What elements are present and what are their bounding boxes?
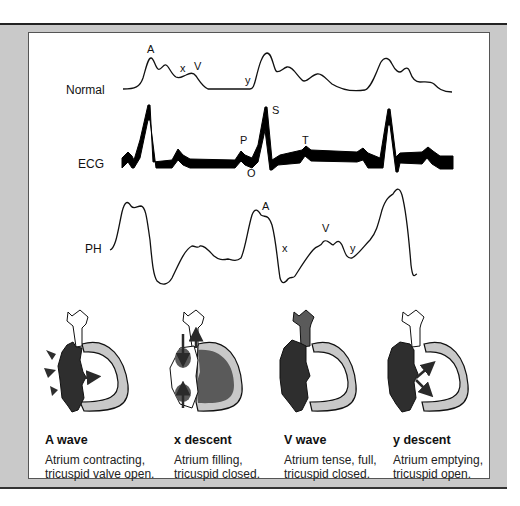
heart-a-wave — [44, 310, 128, 412]
caption-description: Atrium filling, tricuspid closed. — [174, 453, 284, 481]
flow-arrow — [84, 377, 94, 378]
caption-description: Atrium contracting, tricuspid valve open… — [45, 453, 155, 481]
caption-description: Atrium tense, full, tricuspid closed. — [284, 453, 394, 481]
caption-line: tricuspid valve open. — [45, 467, 155, 481]
outflow-arrow-up — [416, 366, 430, 378]
caption-line: tricuspid closed. — [284, 467, 394, 481]
heart-v-wave — [280, 310, 356, 412]
ventricle-wall — [310, 342, 356, 411]
caption-y-descent: y descent Atrium emptying, tricuspid ope… — [393, 433, 503, 481]
caption-a-wave: A wave Atrium contracting, tricuspid val… — [45, 433, 155, 481]
atrium-contracting — [58, 342, 86, 412]
caption-line: Atrium filling, — [174, 453, 284, 467]
heart-diagrams — [0, 0, 520, 506]
caption-line: Atrium contracting, — [45, 453, 155, 467]
contraction-arrows — [44, 350, 58, 396]
caption-title: V wave — [284, 433, 394, 448]
caption-line: Atrium tense, full, — [284, 453, 394, 467]
ventricle-wall — [422, 342, 468, 411]
great-vessel — [402, 310, 424, 347]
caption-title: x descent — [174, 433, 284, 448]
caption-line: Atrium emptying, — [393, 453, 503, 467]
caption-line: tricuspid closed. — [174, 467, 284, 481]
atrium-full — [280, 340, 310, 412]
caption-line: tricuspid open. — [393, 467, 503, 481]
caption-title: y descent — [393, 433, 503, 448]
great-vessel — [183, 310, 204, 347]
caption-x-descent: x descent Atrium filling, tricuspid clos… — [174, 433, 284, 481]
atrium-emptying — [388, 342, 418, 412]
heart-y-descent — [388, 310, 468, 412]
outflow-arrow-down — [416, 380, 428, 392]
heart-x-descent — [170, 310, 242, 411]
caption-description: Atrium emptying, tricuspid open. — [393, 453, 503, 481]
great-vessel — [67, 310, 88, 347]
caption-title: A wave — [45, 433, 155, 448]
caption-v-wave: V wave Atrium tense, full, tricuspid clo… — [284, 433, 394, 481]
